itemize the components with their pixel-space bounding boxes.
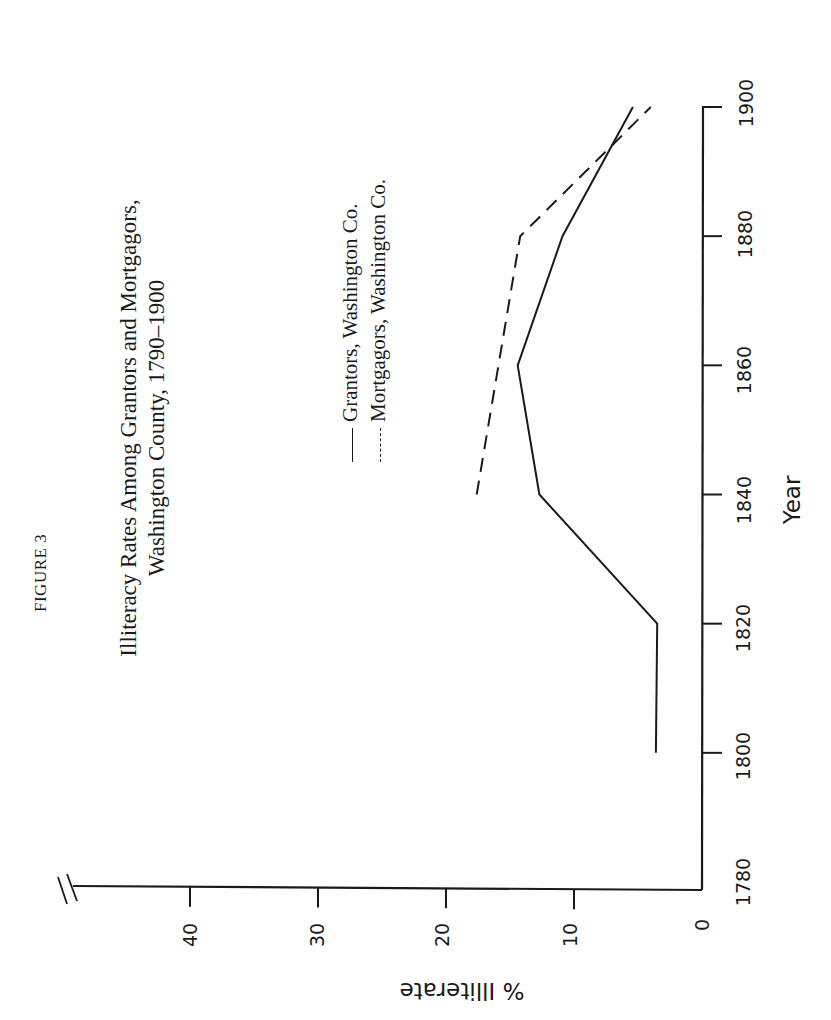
- legend-item-grantors: Grantors, Washington Co.: [336, 179, 364, 462]
- x-tick-label: 1820: [732, 604, 754, 652]
- grantors-line: [518, 107, 658, 753]
- series-lines: [477, 107, 658, 753]
- figure-label: FIGURE 3: [31, 534, 51, 612]
- x-axis-line: [702, 106, 703, 890]
- axis-break-icon: [58, 874, 77, 904]
- x-tick-label: 1880: [734, 210, 756, 258]
- x-tick-label: 1860: [733, 346, 755, 394]
- dashed-line-icon: [380, 428, 381, 462]
- x-tick-label: 1780: [732, 858, 754, 906]
- y-tick-label: 10: [559, 923, 581, 947]
- mortgagors-line: [477, 107, 651, 495]
- chart-title: Illiteracy Rates Among Grantors and Mort…: [115, 88, 171, 768]
- chart-title-line1: Illiteracy Rates Among Grantors and Mort…: [115, 88, 143, 768]
- legend-label-grantors: Grantors, Washington Co.: [338, 204, 362, 422]
- y-axis-title: % Illiterate: [399, 978, 524, 1004]
- x-tick-label: 1800: [732, 732, 754, 780]
- legend-label-mortgagors: Mortgagors, Washington Co.: [366, 179, 390, 422]
- y-tick-marks: [190, 887, 574, 909]
- legend-item-mortgagors: Mortgagors, Washington Co.: [364, 179, 392, 462]
- x-axis-title: Year: [779, 476, 805, 525]
- legend: Grantors, Washington Co. Mortgagors, Was…: [336, 179, 392, 462]
- figure-label-text: FIGURE 3: [31, 534, 50, 612]
- solid-line-icon: [352, 428, 353, 462]
- y-tick-label: 0: [691, 919, 713, 931]
- chart-title-line2: Washington County, 1790–1900: [143, 88, 171, 768]
- y-axis-line: [73, 886, 702, 890]
- y-tick-label: 40: [179, 923, 201, 947]
- y-tick-label: 20: [431, 923, 453, 947]
- x-tick-marks: [703, 107, 722, 753]
- x-tick-label: 1900: [735, 79, 757, 127]
- y-tick-label: 30: [306, 923, 328, 947]
- x-tick-label: 1840: [733, 476, 755, 524]
